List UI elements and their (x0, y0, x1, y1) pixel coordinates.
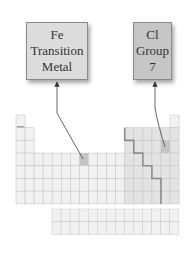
element-cell (34, 166, 43, 179)
element-cell (43, 191, 52, 204)
element-cell (25, 140, 34, 153)
element-cell (61, 166, 70, 179)
element-cell (116, 179, 125, 192)
fe-leader-arrow (57, 84, 83, 159)
element-cell (170, 140, 179, 153)
f-block-cell (79, 209, 88, 222)
element-cell (61, 179, 70, 192)
element-cell (16, 166, 25, 179)
element-cell (107, 166, 116, 179)
element-cell (170, 191, 179, 204)
element-cell (16, 128, 25, 141)
element-cell (161, 179, 170, 192)
element-cell (116, 191, 125, 204)
element-cell (16, 179, 25, 192)
f-block-cell (70, 209, 79, 222)
element-cell (25, 166, 34, 179)
element-cell (98, 166, 107, 179)
element-cell (88, 153, 97, 166)
f-block-cell (124, 222, 133, 235)
element-cell (134, 166, 143, 179)
element-cell (16, 140, 25, 153)
element-cell (134, 140, 143, 153)
element-cell (134, 191, 143, 204)
element-cell (161, 191, 170, 204)
element-cell (170, 115, 179, 128)
element-cell (125, 166, 134, 179)
element-cell (52, 153, 61, 166)
element-cell (143, 191, 152, 204)
element-cell (61, 191, 70, 204)
element-cell (52, 166, 61, 179)
element-cell (170, 179, 179, 192)
element-cell (70, 166, 79, 179)
element-cell (107, 179, 116, 192)
f-block-cell (124, 209, 133, 222)
element-cell (61, 153, 70, 166)
cl-element-cell (161, 140, 170, 153)
f-block-cell (106, 209, 115, 222)
f-block-cell (143, 222, 152, 235)
element-cell (170, 128, 179, 141)
f-block-cell (161, 222, 170, 235)
element-cell (125, 153, 134, 166)
element-cell (107, 191, 116, 204)
element-cell (152, 140, 161, 153)
element-cell (52, 179, 61, 192)
f-block-cell (106, 222, 115, 235)
element-cell (16, 191, 25, 204)
f-block-cell (61, 222, 70, 235)
element-cell (152, 179, 161, 192)
f-block-cell (134, 222, 143, 235)
element-cell (43, 179, 52, 192)
element-cell (161, 166, 170, 179)
element-cell (116, 166, 125, 179)
element-cell (98, 179, 107, 192)
f-block-cell (115, 222, 124, 235)
element-cell (34, 191, 43, 204)
element-cell (143, 179, 152, 192)
f-block-cell (52, 209, 61, 222)
f-block-cell (97, 209, 106, 222)
element-cell (88, 166, 97, 179)
element-cell (79, 191, 88, 204)
f-block-cell (52, 222, 61, 235)
f-block-cell (152, 209, 161, 222)
f-block-cell (70, 222, 79, 235)
element-cell (134, 179, 143, 192)
f-block-cell (170, 209, 179, 222)
element-cell (152, 191, 161, 204)
element-cell (125, 191, 134, 204)
element-cell (43, 166, 52, 179)
element-cell (134, 128, 143, 141)
element-cell (125, 140, 134, 153)
element-cell (107, 153, 116, 166)
element-cell (152, 166, 161, 179)
f-block-cell (61, 209, 70, 222)
element-cell (52, 191, 61, 204)
element-cell (143, 128, 152, 141)
element-cell (16, 153, 25, 166)
element-cell (34, 179, 43, 192)
element-cell (98, 153, 107, 166)
f-block-cell (161, 209, 170, 222)
element-cell (143, 140, 152, 153)
f-block-cell (97, 222, 106, 235)
element-cell (25, 179, 34, 192)
element-cell (16, 115, 25, 128)
element-cell (125, 128, 134, 141)
element-cell (70, 191, 79, 204)
f-block-cell (88, 209, 97, 222)
element-cell (25, 153, 34, 166)
element-cell (88, 179, 97, 192)
element-cell (170, 166, 179, 179)
element-cell (34, 153, 43, 166)
f-block-cell (134, 209, 143, 222)
f-block-cell (115, 209, 124, 222)
element-cell (161, 153, 170, 166)
element-cell (170, 153, 179, 166)
periodic-table (0, 0, 196, 254)
f-block-cell (143, 209, 152, 222)
element-cell (143, 166, 152, 179)
element-cell (70, 179, 79, 192)
